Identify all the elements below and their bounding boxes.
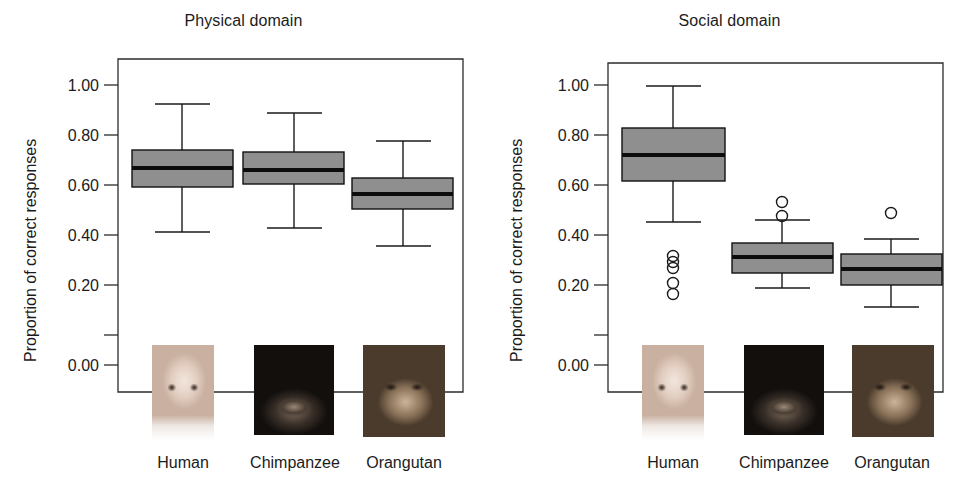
y-axis-ticks-social	[594, 85, 608, 365]
x-category-label-chimpanzee-social: Chimpanzee	[739, 454, 829, 471]
x-category-label-orangutan: Orangutan	[366, 454, 442, 471]
figure-boxplot-physical-social: Physical domain Proportion of correct re…	[0, 0, 973, 496]
y-tick-label-5-social: 0.20	[558, 277, 589, 294]
y-tick-label-4: 0.40	[68, 227, 99, 244]
x-category-label-human-social: Human	[647, 454, 699, 471]
boxplot-social-human	[622, 86, 725, 300]
x-category-label-human: Human	[157, 454, 209, 471]
y-tick-label-3-social: 0.60	[558, 177, 589, 194]
panel-social-domain: Social domain 1.00 0.80 0.60 0.40 0.20 0…	[486, 0, 973, 496]
y-tick-label-1-social: 1.00	[558, 77, 589, 94]
boxplot-physical-chimpanzee	[243, 113, 344, 228]
y-tick-label-1: 1.00	[68, 77, 99, 94]
y-tick-label-5: 0.20	[68, 277, 99, 294]
human-child-photo-social	[642, 345, 704, 440]
boxplot-physical-orangutan	[352, 141, 453, 246]
y-tick-label-2-social: 0.80	[558, 127, 589, 144]
y-tick-label-3: 0.60	[68, 177, 99, 194]
y-axis-ticks-physical	[104, 85, 118, 365]
chimpanzee-photo	[254, 345, 334, 435]
boxplot-social-orangutan	[841, 208, 942, 308]
axis-frame-social	[608, 63, 943, 392]
boxplot-physical-human	[132, 104, 233, 232]
x-category-label-orangutan-social: Orangutan	[854, 454, 930, 471]
y-tick-label-6: 0.00	[68, 357, 99, 374]
human-child-photo	[152, 345, 214, 440]
orangutan-photo-social	[852, 345, 934, 437]
y-tick-label-4-social: 0.40	[558, 227, 589, 244]
y-axis-label-social: Proportion of correct responses	[508, 139, 526, 362]
orangutan-photo	[363, 345, 445, 437]
panel-physical-domain: Physical domain Proportion of correct re…	[0, 0, 487, 496]
chimpanzee-photo-social	[744, 345, 824, 435]
boxplot-social-chimpanzee	[732, 197, 833, 289]
y-tick-label-2: 0.80	[68, 127, 99, 144]
axis-frame-physical	[118, 59, 463, 392]
y-tick-label-6-social: 0.00	[558, 357, 589, 374]
x-category-label-chimpanzee: Chimpanzee	[250, 454, 340, 471]
